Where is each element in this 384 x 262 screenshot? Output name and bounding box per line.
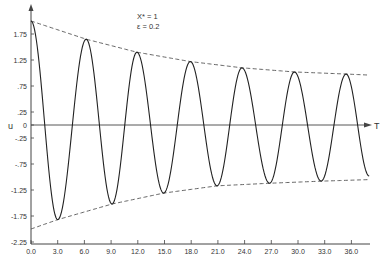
axes bbox=[29, 4, 373, 244]
x-tick-label: 24.0 bbox=[238, 248, 252, 255]
y-tick-label: -.75 bbox=[15, 161, 27, 168]
x-tick-label: 30.0 bbox=[291, 248, 305, 255]
oscillation-line bbox=[31, 21, 369, 220]
annotation-xstar: X* = 1 bbox=[137, 12, 158, 21]
x-axis-title: T bbox=[374, 121, 380, 131]
y-tick-label: .25 bbox=[17, 109, 27, 116]
y-tick-label: -1.25 bbox=[11, 187, 27, 194]
y-tick-label: 0 bbox=[23, 122, 27, 129]
x-tick-label: 0.0 bbox=[26, 248, 36, 255]
annotation-epsilon: ε = 0.2 bbox=[137, 22, 159, 31]
y-axis-arrow-icon bbox=[29, 4, 34, 11]
x-axis-ticks: 0.03.06.09.012.015.018.021.024.027.030.0… bbox=[26, 240, 358, 255]
chart: 1.751.25.75.250-.25-.75-1.25-1.75-2.25 0… bbox=[0, 0, 384, 262]
lower-envelope-line bbox=[31, 180, 369, 229]
x-tick-label: 33.0 bbox=[318, 248, 332, 255]
x-tick-label: 27.0 bbox=[264, 248, 278, 255]
x-tick-label: 6.0 bbox=[80, 248, 90, 255]
x-tick-label: 18.0 bbox=[184, 248, 198, 255]
x-tick-label: 36.0 bbox=[345, 248, 359, 255]
t-axis-arrow-icon bbox=[364, 123, 372, 128]
x-tick-label: 9.0 bbox=[106, 248, 116, 255]
x-tick-label: 21.0 bbox=[211, 248, 225, 255]
y-tick-label: .75 bbox=[17, 83, 27, 90]
y-tick-label: -.25 bbox=[15, 135, 27, 142]
y-axis-title: u bbox=[8, 121, 13, 131]
y-tick-label: -1.75 bbox=[11, 213, 27, 220]
y-tick-label: -2.25 bbox=[11, 239, 27, 246]
x-tick-label: 15.0 bbox=[158, 248, 172, 255]
x-tick-label: 3.0 bbox=[53, 248, 63, 255]
y-tick-label: 1.75 bbox=[13, 31, 27, 38]
x-tick-label: 12.0 bbox=[131, 248, 145, 255]
y-tick-label: 1.25 bbox=[13, 57, 27, 64]
